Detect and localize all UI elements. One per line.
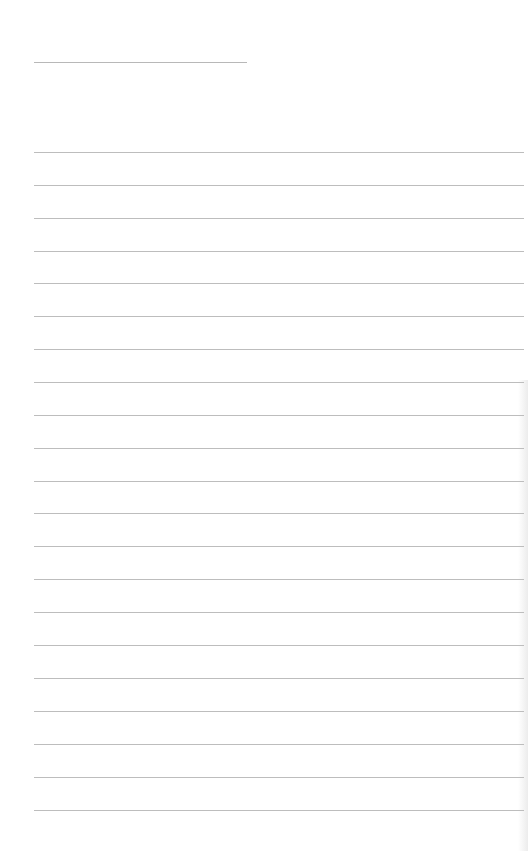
ruled-lines xyxy=(34,0,524,851)
ruled-line xyxy=(34,711,524,712)
ruled-line xyxy=(34,678,524,679)
ruled-line xyxy=(34,645,524,646)
ruled-line xyxy=(34,316,524,317)
ruled-line xyxy=(34,612,524,613)
ruled-line xyxy=(34,448,524,449)
ruled-line xyxy=(34,283,524,284)
ruled-line xyxy=(34,777,524,778)
lined-paper-page xyxy=(0,0,528,851)
ruled-line xyxy=(34,185,524,186)
ruled-line xyxy=(34,152,524,153)
ruled-line xyxy=(34,218,524,219)
ruled-line xyxy=(34,251,524,252)
ruled-line xyxy=(34,744,524,745)
ruled-line xyxy=(34,382,524,383)
ruled-line xyxy=(34,810,524,811)
ruled-line xyxy=(34,415,524,416)
ruled-line xyxy=(34,481,524,482)
ruled-line xyxy=(34,349,524,350)
ruled-line xyxy=(34,579,524,580)
ruled-line xyxy=(34,546,524,547)
ruled-line xyxy=(34,513,524,514)
